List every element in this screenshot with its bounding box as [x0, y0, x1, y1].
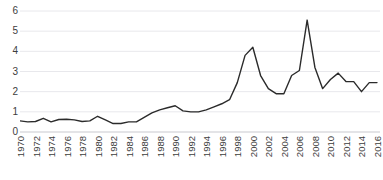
line-chart: 6543210 19701972197419761978198019821984…: [0, 0, 383, 180]
x-tick-label: 1976: [63, 136, 73, 157]
x-tick-label: 1980: [94, 136, 104, 157]
x-tick-label: 2008: [311, 136, 321, 157]
x-tick-label: 2014: [357, 136, 367, 157]
x-tick-label: 1998: [233, 136, 243, 157]
x-tick-label: 1988: [156, 136, 166, 157]
x-tick-label: 2004: [280, 136, 290, 157]
x-tick-label: 2016: [373, 136, 383, 157]
gridlines: [20, 11, 380, 132]
x-tick-label: 1970: [16, 136, 26, 157]
x-tick-label: 1986: [140, 136, 150, 157]
x-tick-label: 1982: [109, 136, 119, 157]
x-tick-label: 1984: [125, 136, 135, 157]
x-tick-label: 1996: [218, 136, 228, 157]
y-tick-label: 4: [2, 46, 18, 56]
x-tick-label: 1972: [32, 136, 42, 157]
x-tick-label: 1992: [187, 136, 197, 157]
y-tick-label: 3: [2, 67, 18, 77]
x-tick-label: 2000: [249, 136, 259, 157]
x-tick-label: 1974: [47, 136, 57, 157]
x-tick-label: 1978: [78, 136, 88, 157]
x-tick-label: 1994: [202, 136, 212, 157]
x-tick-label: 2010: [326, 136, 336, 157]
y-tick-label: 2: [2, 87, 18, 97]
x-tick-label: 2002: [264, 136, 274, 157]
x-axis: 1970197219741976197819801982198419861988…: [20, 136, 380, 180]
y-tick-label: 5: [2, 26, 18, 36]
x-tick-label: 2006: [295, 136, 305, 157]
x-tick-label: 2012: [342, 136, 352, 157]
y-tick-label: 6: [2, 6, 18, 16]
x-tick-label: 1990: [171, 136, 181, 157]
y-tick-label: 1: [2, 107, 18, 117]
